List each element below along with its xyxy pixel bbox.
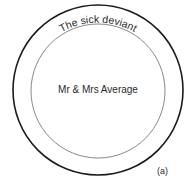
nested-circles-diagram: The sick deviant Mr & Mrs Average (a) bbox=[0, 0, 194, 178]
inner-label: Mr & Mrs Average bbox=[58, 84, 138, 95]
panel-label: (a) bbox=[157, 166, 168, 176]
